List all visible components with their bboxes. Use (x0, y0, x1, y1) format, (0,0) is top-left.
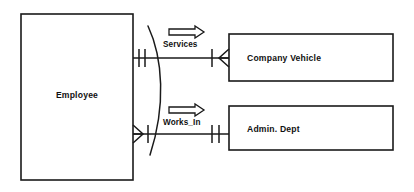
services-direction-arrow-icon (169, 26, 204, 38)
entity-admin-dept[interactable]: Admin. Dept (229, 106, 393, 150)
grouping-arc (148, 26, 161, 155)
entity-employee-label: Employee (56, 90, 98, 100)
er-diagram-svg: Employee Company Vehicle Admin. Dept (0, 0, 414, 192)
relationship-works-in[interactable]: Works_In (133, 104, 229, 143)
entity-employee[interactable]: Employee (21, 14, 133, 180)
entity-admin-dept-label: Admin. Dept (247, 124, 300, 134)
works-in-direction-arrow-icon (169, 104, 204, 116)
relationship-services[interactable]: Services (133, 26, 229, 67)
er-diagram-canvas: Employee Company Vehicle Admin. Dept (0, 0, 414, 192)
relationship-works-in-label: Works_In (163, 118, 201, 127)
entity-company-vehicle-label: Company Vehicle (247, 53, 321, 63)
relationship-services-label: Services (163, 40, 198, 49)
entity-company-vehicle[interactable]: Company Vehicle (229, 34, 393, 81)
